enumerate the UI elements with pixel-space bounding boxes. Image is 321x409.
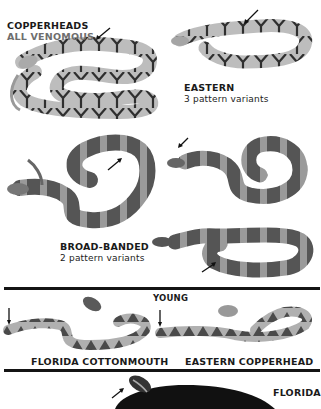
arrow-indicator (98, 28, 110, 38)
divider-top (4, 287, 320, 290)
page-title: COPPERHEADS (7, 20, 89, 31)
snake-young-cottonmouth (8, 294, 146, 345)
snake-eastern-2 (171, 26, 306, 62)
snake-broad-banded-2 (167, 144, 300, 197)
snake-young-copperhead (160, 305, 307, 337)
group-broad-banded-detail: 2 pattern variants (60, 253, 145, 263)
young-cottonmouth-label: FLORIDA COTTONMOUTH (31, 356, 168, 367)
florida-label: FLORIDA (273, 387, 321, 398)
young-copperhead-label: EASTERN COPPERHEAD (185, 356, 313, 367)
snake-broad-banded-3 (152, 235, 306, 270)
young-heading: YOUNG (153, 293, 188, 303)
snake-broad-banded-1 (7, 143, 148, 221)
group-eastern-detail: 3 pattern variants (184, 94, 269, 104)
divider-bottom (4, 369, 320, 372)
snake-eastern-1 (11, 44, 151, 112)
page-subtitle: ALL VENOMOUS (7, 31, 94, 42)
snake-florida (115, 372, 275, 409)
group-broad-banded-name: BROAD-BANDED (60, 241, 149, 252)
group-eastern-name: EASTERN (184, 82, 234, 93)
